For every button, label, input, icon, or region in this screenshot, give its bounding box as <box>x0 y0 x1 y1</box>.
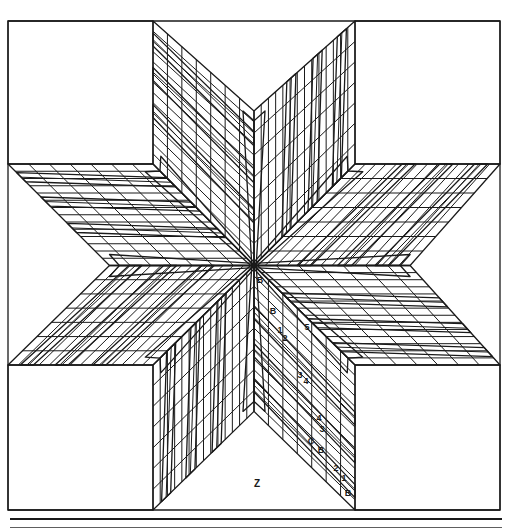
piece-label: B <box>270 306 277 316</box>
region-label-z: Z <box>254 478 260 489</box>
piece-label: 4 <box>316 413 321 423</box>
star-diamond-8 <box>8 164 254 266</box>
center-point <box>252 264 256 268</box>
piece-label: 5 <box>304 322 309 332</box>
bottom-rule-thick <box>10 518 502 520</box>
star-artwork <box>8 21 500 510</box>
star-diamond-2 <box>254 21 355 266</box>
quilt-star-diagram: BB5123443CB21B Z <box>0 0 509 529</box>
bottom-rule-thin <box>10 527 502 528</box>
piece-label: B <box>345 488 352 498</box>
piece-label: 2 <box>282 333 287 343</box>
star-diamond-4 <box>254 266 500 366</box>
piece-label: 3 <box>319 424 324 434</box>
piece-label: C <box>308 436 315 446</box>
piece-label: 4 <box>303 376 308 386</box>
piece-label: 1 <box>341 473 346 483</box>
piece-label: B <box>318 445 325 455</box>
piece-label: B <box>257 275 264 285</box>
piece-label: 2 <box>333 463 338 473</box>
piece-label: 3 <box>297 370 302 380</box>
